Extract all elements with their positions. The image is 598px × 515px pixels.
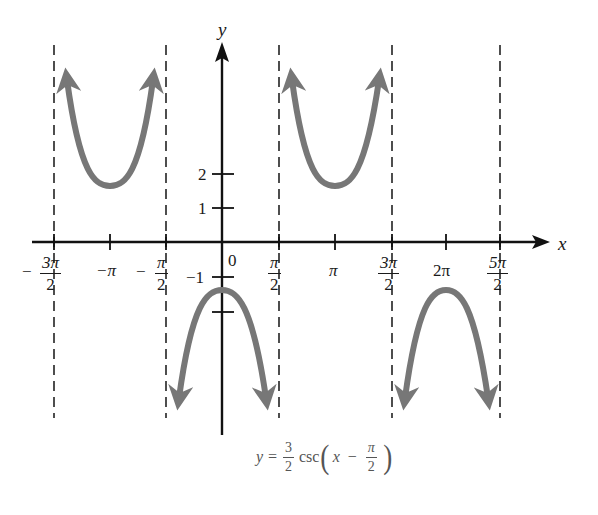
caption-var: x bbox=[333, 448, 340, 466]
x-tick-2pi: 2π bbox=[433, 262, 450, 279]
x-tick-neg-3pi-over-2: 3π 2 bbox=[40, 254, 61, 293]
branch-down-right bbox=[405, 290, 488, 398]
curve bbox=[67, 80, 488, 398]
caption-shift: π 2 bbox=[366, 441, 377, 474]
branch-up-right bbox=[292, 80, 379, 186]
caption-close-paren: ) bbox=[383, 440, 392, 474]
x-tick-5pi-over-2: 5π 2 bbox=[487, 254, 508, 293]
branch-up-left bbox=[67, 80, 153, 186]
caption-function: csc bbox=[299, 448, 319, 466]
caption-lhs: y = bbox=[256, 448, 278, 466]
x-axis bbox=[32, 234, 550, 250]
asymptotes bbox=[54, 45, 500, 418]
origin-label: 0 bbox=[228, 252, 237, 269]
y-tick-neg-1: −1 bbox=[186, 269, 204, 286]
x-tick-neg-pi: −π bbox=[96, 262, 116, 279]
csc-graph bbox=[0, 0, 598, 515]
x-tick-neg-pi-over-2: π 2 bbox=[155, 254, 168, 293]
y-axis bbox=[212, 42, 234, 435]
x-tick-neg-pi-over-2-sign: − bbox=[136, 262, 146, 282]
x-tick-neg-3pi-over-2-sign: − bbox=[22, 262, 32, 282]
y-tick-1: 1 bbox=[198, 200, 207, 217]
caption-minus: − bbox=[348, 448, 357, 466]
caption-coefficient: 3 2 bbox=[283, 441, 294, 474]
x-axis-label: x bbox=[558, 234, 566, 253]
x-tick-pi: π bbox=[329, 262, 338, 279]
x-tick-pi-over-2: π 2 bbox=[268, 254, 281, 293]
y-axis-label: y bbox=[218, 20, 226, 39]
equation-caption: y = 3 2 csc ( x − π 2 ) bbox=[256, 440, 393, 474]
x-tick-3pi-over-2: 3π 2 bbox=[378, 254, 399, 293]
y-tick-2: 2 bbox=[198, 166, 207, 183]
caption-open-paren: ( bbox=[320, 440, 329, 474]
